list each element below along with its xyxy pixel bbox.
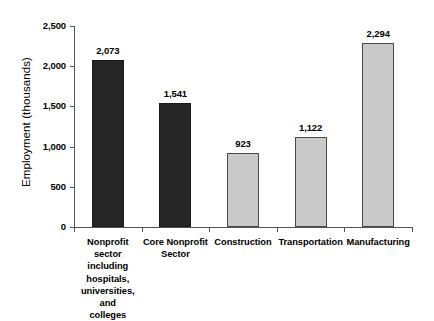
x-axis-tick-mark [344, 228, 345, 232]
x-axis-category-label-line: including [74, 260, 142, 272]
y-axis-tick-label-text: 2,500 [8, 21, 66, 31]
y-axis-tick-label-text: 1,000 [8, 142, 66, 152]
y-axis-title: Employment (thousands) [18, 22, 34, 222]
bar-value-label: 2,073 [68, 46, 148, 56]
x-axis-category-label-line: hospitals, [74, 273, 142, 285]
x-axis-category-label-line: universities, and [74, 285, 142, 309]
bar[interactable] [92, 60, 124, 227]
x-axis-category-label-line: Construction [209, 236, 277, 248]
x-axis-category-label: Manufacturing [344, 236, 412, 248]
x-axis-category-label: Core NonprofitSector [142, 236, 210, 260]
x-axis-tick-mark [412, 228, 413, 232]
bar[interactable] [159, 103, 191, 227]
x-axis-category-label-line: Manufacturing [344, 236, 412, 248]
y-axis-tick-label: 1,000 [0, 142, 66, 152]
y-axis-tick-label: 0 [0, 222, 66, 232]
x-axis-category-label-line: Sector [142, 248, 210, 260]
y-axis-tick-label: 2,000 [0, 61, 66, 71]
bar-value-label: 1,122 [271, 123, 351, 133]
bar-value-label: 2,294 [338, 29, 418, 39]
bar[interactable] [227, 153, 259, 227]
bar-value-label: 1,541 [135, 89, 215, 99]
x-axis-category-label-line: Core Nonprofit [142, 236, 210, 248]
y-axis-tick-label: 1,500 [0, 101, 66, 111]
y-axis-tick-label: 2,500 [0, 21, 66, 31]
x-axis-category-label: Transportation [277, 236, 345, 248]
y-axis-tick-label-text: 2,000 [8, 61, 66, 71]
y-axis-tick-label: 500 [0, 182, 66, 192]
x-axis-tick-mark [142, 228, 143, 232]
y-axis-tick-label-text: 1,500 [8, 101, 66, 111]
x-axis-category-label-line: Nonprofit sector [74, 236, 142, 260]
x-axis-line [74, 227, 413, 228]
x-axis-category-label-line: colleges [74, 309, 142, 321]
x-axis-tick-mark [209, 228, 210, 232]
x-axis-tick-mark [74, 228, 75, 232]
x-axis-category-label: Nonprofit sectorincludinghospitals,unive… [74, 236, 142, 321]
x-axis-category-label-line: Transportation [277, 236, 345, 248]
bar[interactable] [362, 43, 394, 227]
x-axis-category-label: Construction [209, 236, 277, 248]
y-axis-tick-label-text: 500 [8, 182, 66, 192]
x-axis-tick-mark [277, 228, 278, 232]
bar-value-label: 923 [203, 139, 283, 149]
bar[interactable] [295, 137, 327, 227]
y-axis-tick-label-text: 0 [8, 222, 66, 232]
